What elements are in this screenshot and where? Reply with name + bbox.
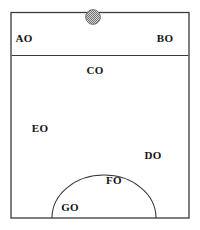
zone-label-co: CO: [86, 65, 103, 76]
zone-label-layer: AO BO CO EO DO FO GO: [0, 0, 200, 230]
zone-label-go: GO: [61, 202, 79, 213]
zone-label-fo: FO: [106, 175, 122, 186]
zone-label-do: DO: [144, 150, 161, 161]
zone-label-ao: AO: [15, 33, 32, 44]
zone-label-bo: BO: [157, 33, 174, 44]
diagram-canvas: AO BO CO EO DO FO GO: [0, 0, 200, 230]
zone-label-eo: EO: [32, 123, 49, 134]
